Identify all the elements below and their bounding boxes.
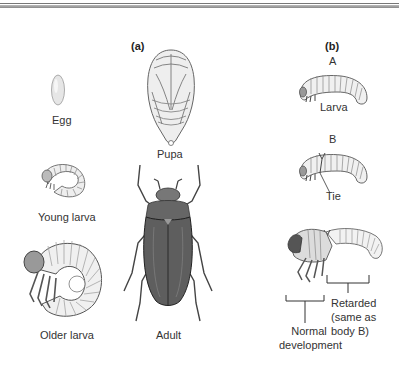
panel-a-label: (a) (131, 40, 144, 52)
normal-development-label: Normal development (279, 324, 339, 352)
young-larva-label: Young larva (38, 211, 96, 223)
larva-a-label: Larva (320, 101, 348, 113)
retarded-line1: Retarded (331, 296, 376, 310)
egg-label: Egg (52, 114, 72, 126)
specimen-b-letter: B (329, 133, 336, 145)
older-larva-label: Older larva (40, 329, 94, 341)
young-larva-illustration (38, 162, 88, 200)
panel-b-label: (b) (325, 40, 339, 52)
tie-label: Tie (326, 190, 341, 202)
retarded-line3: body B) (331, 324, 376, 338)
top-border-line (0, 3, 399, 4)
normal-line1: Normal (279, 324, 339, 338)
specimen-a-letter: A (329, 55, 336, 67)
pupa-label: Pupa (157, 148, 183, 160)
older-larva-illustration (20, 238, 106, 320)
top-border-bar (0, 5, 399, 8)
result-larva-illustration (284, 222, 384, 282)
adult-beetle-illustration (120, 163, 216, 328)
normal-line2: development (279, 338, 339, 352)
bracket-retarded (325, 275, 373, 295)
egg-illustration (48, 72, 68, 108)
retarded-line2: (same as (331, 310, 376, 324)
pupa-illustration (144, 48, 198, 148)
retarded-label: Retarded (same as body B) (331, 296, 376, 338)
adult-label: Adult (156, 329, 181, 341)
bracket-normal-development (284, 295, 328, 325)
